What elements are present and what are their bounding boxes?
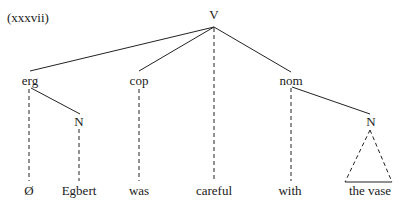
branch-v-cop bbox=[139, 27, 214, 71]
leaf-with: with bbox=[278, 184, 301, 198]
leaf-egbert: Egbert bbox=[62, 184, 97, 198]
branch-erg-n bbox=[31, 88, 80, 114]
leaf-careful: careful bbox=[196, 184, 232, 198]
branch-nom-n bbox=[292, 87, 370, 114]
node-cop: cop bbox=[130, 74, 149, 88]
leaf-the-vase: the vase bbox=[349, 184, 391, 198]
leaf-null: Ø bbox=[24, 184, 33, 198]
node-erg-n: N bbox=[74, 115, 83, 129]
branch-v-nom bbox=[214, 27, 291, 72]
triangle-right bbox=[370, 130, 392, 182]
node-v: V bbox=[209, 8, 218, 22]
leaf-was: was bbox=[129, 184, 149, 198]
triangle-left bbox=[345, 130, 370, 182]
example-number: (xxxvii) bbox=[7, 11, 49, 25]
node-nom: nom bbox=[279, 74, 302, 88]
node-nom-n: N bbox=[366, 115, 375, 129]
tree-lines bbox=[0, 0, 405, 207]
node-erg: erg bbox=[22, 74, 38, 88]
branch-v-erg bbox=[30, 27, 214, 71]
